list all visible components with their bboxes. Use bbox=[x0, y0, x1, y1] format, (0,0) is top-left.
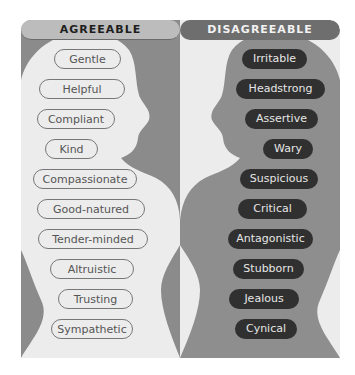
disagreeable-header: DISAGREEABLE bbox=[180, 20, 340, 40]
trait-pill: Altruistic bbox=[50, 259, 134, 279]
trait-pill: Critical bbox=[238, 199, 307, 219]
trait-pill: Stubborn bbox=[233, 259, 304, 279]
trait-pill: Helpful bbox=[39, 79, 125, 99]
trait-pill: Cynical bbox=[235, 319, 297, 339]
trait-pill: Irritable bbox=[242, 49, 307, 69]
trait-pill: Antagonistic bbox=[228, 229, 313, 249]
trait-pill: Wary bbox=[263, 139, 313, 159]
trait-pill: Compassionate bbox=[33, 169, 137, 189]
trait-pill: Tender-minded bbox=[38, 229, 148, 249]
trait-pill: Compliant bbox=[37, 109, 115, 129]
trait-pill: Assertive bbox=[245, 109, 318, 129]
trait-pill: Trusting bbox=[58, 289, 133, 309]
trait-pill: Kind bbox=[45, 139, 98, 159]
trait-pill: Sympathetic bbox=[51, 319, 133, 339]
agreeable-panel: AGREEABLE Gentle Helpful Compliant Kind … bbox=[21, 20, 180, 358]
trait-pill: Headstrong bbox=[236, 79, 325, 99]
agreeable-header: AGREEABLE bbox=[21, 20, 180, 40]
trait-pill: Good-natured bbox=[37, 199, 145, 219]
trait-pill: Jealous bbox=[229, 289, 299, 309]
trait-pill: Suspicious bbox=[240, 169, 318, 189]
trait-pill: Gentle bbox=[54, 49, 121, 69]
disagreeable-panel: DISAGREEABLE Irritable Headstrong Assert… bbox=[180, 20, 340, 358]
